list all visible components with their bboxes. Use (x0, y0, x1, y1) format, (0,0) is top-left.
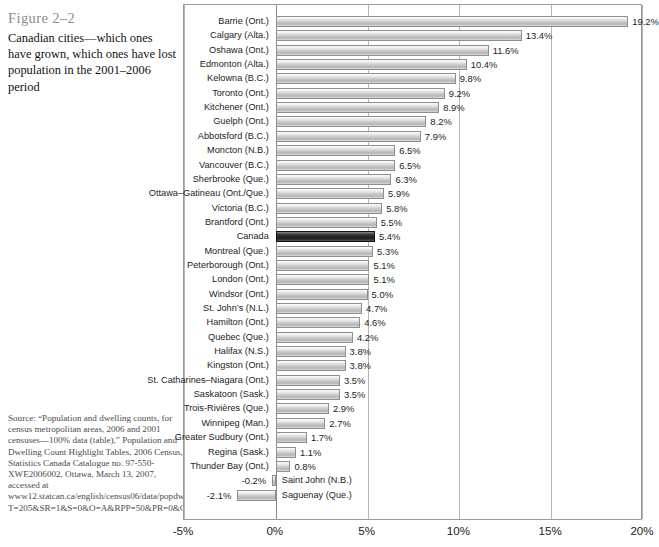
bar-saguenay-que (237, 490, 276, 501)
category-label: Trois-Rivières (Que.) (184, 402, 269, 415)
category-label: London (Ont.) (212, 273, 269, 286)
source-citation: Source: “Population and dwelling counts,… (8, 413, 184, 514)
bar-row: Victoria (B.C.)5.8% (184, 202, 641, 215)
bar-victoria-b-c (276, 203, 382, 214)
category-label: St. Catharines–Niagara (Ont.) (147, 374, 269, 387)
category-label: St. John’s (N.L.) (203, 302, 269, 315)
category-label: Winnipeg (Man.) (201, 417, 268, 430)
value-label: 7.9% (425, 130, 446, 143)
bar-row: Sherbrooke (Que.)6.3% (184, 173, 641, 186)
bar-moncton-n-b (276, 145, 395, 156)
bar-row: Hamilton (Ont.)4.6% (184, 316, 641, 329)
category-label: Sherbrooke (Que.) (193, 173, 269, 186)
bar-row: Guelph (Ont.)8.2% (184, 115, 641, 128)
bar-row: Winnipeg (Man.)2.7% (184, 417, 641, 430)
category-label: Halifax (N.S.) (214, 345, 269, 358)
bar-row: Toronto (Ont.)9.2% (184, 87, 641, 100)
category-label: Toronto (Ont.) (212, 87, 269, 100)
bar-row: St. Catharines–Niagara (Ont.)3.5% (184, 374, 641, 387)
category-label: Thunder Bay (Ont.) (190, 460, 269, 473)
category-label: Kingston (Ont.) (207, 359, 269, 372)
bar-row: Ottawa–Gatineau (Ont./Que.)5.9% (184, 187, 641, 200)
category-label: Quebec (Que.) (208, 331, 269, 344)
bar-toronto-ont (276, 88, 445, 99)
bar-row: Saguenay (Que.)-2.1% (184, 489, 641, 502)
category-label: Ottawa–Gatineau (Ont./Que.) (149, 187, 269, 200)
bar-kitchener-ont (276, 102, 439, 113)
category-label: Saskatoon (Sask.) (194, 388, 269, 401)
bar-sherbrooke-que (276, 174, 392, 185)
value-label: 3.5% (344, 374, 365, 387)
x-tick-label: 5% (358, 524, 375, 537)
bar-st-john-s-n-l (276, 303, 362, 314)
value-label: 8.9% (443, 101, 464, 114)
bar-row: Quebec (Que.)4.2% (184, 331, 641, 344)
value-label: 0.8% (294, 460, 315, 473)
x-tick-label: 15% (539, 524, 562, 537)
bar-row: Canada5.4% (184, 230, 641, 243)
bar-quebec-que (276, 332, 353, 343)
bar-row: Windsor (Ont.)5.0% (184, 288, 641, 301)
bar-winnipeg-man (276, 418, 326, 429)
bar-guelph-ont (276, 116, 427, 127)
category-label: Greater Sudbury (Ont.) (175, 431, 269, 444)
bar-montreal-que (276, 246, 373, 257)
category-label: Abbotsford (B.C.) (198, 130, 269, 143)
category-label: Brantford (Ont.) (205, 216, 269, 229)
bar-row: Peterborough (Ont.)5.1% (184, 259, 641, 272)
value-label: 3.5% (344, 388, 365, 401)
bar-row: Trois-Rivières (Que.)2.9% (184, 402, 641, 415)
bar-row: Thunder Bay (Ont.)0.8% (184, 460, 641, 473)
value-label: 2.7% (329, 417, 350, 430)
x-tick-label: 0% (266, 524, 283, 537)
bar-row: Moncton (N.B.)6.5% (184, 144, 641, 157)
value-label: 9.8% (460, 72, 481, 85)
bar-halifax-n-s (276, 346, 346, 357)
category-label: Guelph (Ont.) (213, 115, 269, 128)
bar-row: Barrie (Ont.)19.2% (184, 15, 641, 28)
bar-row: Regina (Sask.)1.1% (184, 446, 641, 459)
value-label: 4.2% (357, 331, 378, 344)
x-axis: -5%0%5%10%15%20% (183, 524, 642, 544)
category-label: Windsor (Ont.) (209, 288, 269, 301)
value-label: -2.1% (207, 489, 232, 502)
value-label: 6.5% (399, 144, 420, 157)
bar-greater-sudbury-ont (276, 432, 307, 443)
value-label: 5.5% (381, 216, 402, 229)
bar-barrie-ont (276, 16, 629, 27)
value-label: 1.1% (300, 446, 321, 459)
bar-saint-john-n-b (272, 475, 276, 486)
bar-saskatoon-sask (276, 389, 340, 400)
category-label: Montreal (Que.) (204, 245, 268, 258)
category-label: Hamilton (Ont.) (207, 316, 269, 329)
x-tick-label: -5% (173, 524, 194, 537)
value-label: 19.2% (632, 15, 659, 28)
value-label: 5.4% (379, 230, 400, 243)
x-tick-label: 10% (447, 524, 470, 537)
bar-thunder-bay-ont (276, 461, 291, 472)
bar-oshawa-ont (276, 45, 489, 56)
bar-windsor-ont (276, 289, 368, 300)
gridline-20 (642, 5, 643, 519)
bar-edmonton-alta (276, 59, 467, 70)
bar-vancouver-b-c (276, 160, 395, 171)
category-label: Saguenay (Que.) (282, 489, 352, 502)
category-label: Canada (237, 230, 269, 243)
chart-frame: Barrie (Ont.)19.2%Calgary (Alta.)13.4%Os… (183, 4, 642, 520)
value-label: 8.2% (430, 115, 451, 128)
value-label: 5.9% (388, 187, 409, 200)
value-label: 4.6% (364, 316, 385, 329)
value-label: 6.3% (395, 173, 416, 186)
category-label: Kitchener (Ont.) (204, 101, 269, 114)
bar-hamilton-ont (276, 317, 360, 328)
bar-row: Brantford (Ont.)5.5% (184, 216, 641, 229)
category-label: Vancouver (B.C.) (199, 159, 269, 172)
bar-row: Oshawa (Ont.)11.6% (184, 44, 641, 57)
bar-brantford-ont (276, 217, 377, 228)
bar-row: Halifax (N.S.)3.8% (184, 345, 641, 358)
bar-row: Edmonton (Alta.)10.4% (184, 58, 641, 71)
bar-st-catharines-niagara-ont (276, 375, 340, 386)
bar-ottawa-gatineau-ont-que (276, 188, 384, 199)
bar-row: Saskatoon (Sask.)3.5% (184, 388, 641, 401)
bar-trois-rivi-res-que (276, 403, 329, 414)
